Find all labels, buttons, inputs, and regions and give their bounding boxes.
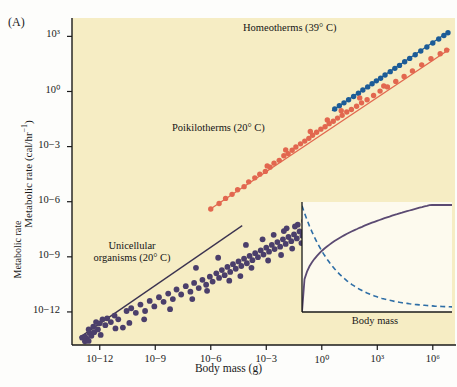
data-point [381,83,386,88]
series-label-unicellular: Unicellularorganisms (20° C) [84,240,180,264]
data-point [419,62,424,67]
data-point [235,187,240,192]
data-point [227,269,233,275]
data-point [277,158,282,163]
data-point [223,196,228,201]
data-point [283,147,288,152]
data-point [241,184,246,189]
x-tick-label: 10⁶ [413,353,453,364]
data-point [126,320,132,326]
data-point [325,117,330,122]
data-point [156,294,162,300]
data-point [133,310,139,316]
data-point [196,285,202,291]
data-point [170,296,176,302]
data-point [128,305,134,311]
data-point [216,201,221,206]
x-tick-label: 10−12 [80,353,120,364]
y-axis-label-close: ) [22,120,34,124]
data-point [378,76,383,81]
data-point [219,267,225,273]
data-point [238,263,244,269]
y-tick-label: 10³ [20,28,60,39]
data-point [410,68,415,73]
x-tick-label: 10−6 [191,353,231,364]
data-point [255,254,261,260]
y-axis-label: Metabolic rate (cal/hr−1) [22,84,34,264]
data-point [349,107,354,112]
data-point [292,224,298,230]
data-point [86,338,92,344]
data-point [102,322,108,328]
data-point [229,192,234,197]
data-point [215,255,221,261]
data-point [193,265,199,271]
data-point [354,103,359,108]
data-point [377,88,382,93]
data-point [237,273,243,279]
data-point [445,30,450,35]
data-point [339,113,344,118]
y-tick-label: 10−6 [20,194,60,205]
data-point [371,93,376,98]
y-tick-label: 10−3 [20,139,60,150]
data-point [272,246,278,252]
data-point [188,289,194,295]
data-point [360,87,365,92]
data-point [167,306,173,312]
x-tick-label: 10⁰ [302,353,342,365]
data-point [174,287,180,293]
data-point [113,326,119,332]
figure-panel-a: (A) Metabolic rate (cal/hr−1) Body mass … [0,0,457,387]
data-point [393,79,398,84]
series-label-poikilotherms: Poikilotherms (20° C) [172,122,265,133]
data-point [191,280,197,286]
data-point [288,238,294,244]
data-point [283,241,289,247]
data-point [430,40,435,45]
data-point [294,236,300,242]
inset-chart [302,202,452,312]
data-point [308,129,313,134]
data-point [278,252,284,258]
data-point [216,275,222,281]
data-point [222,272,228,278]
x-tick-label: 10³ [357,353,397,364]
data-point [337,103,342,108]
data-point [151,304,157,310]
data-point [233,266,239,272]
data-point [413,52,418,57]
data-point [204,288,210,294]
data-point [277,244,283,250]
data-point [249,257,255,263]
data-point [225,264,231,270]
data-point [392,66,397,71]
series-label-unicellular-line1: Unicellular [108,240,155,251]
data-point [428,56,433,61]
data-point [356,91,361,96]
data-point [243,242,249,248]
data-point [382,72,387,77]
y-tick-label: 10−12 [20,304,60,315]
y-tick-label: 10−9 [20,249,60,260]
data-point [293,144,298,149]
data-point [165,291,171,297]
data-point [281,228,287,234]
data-point [257,171,262,176]
data-point [244,260,250,266]
data-point [265,258,271,264]
data-point [226,278,232,284]
data-point [108,319,114,325]
data-point [351,94,356,99]
data-point [436,36,441,41]
data-point [359,100,364,105]
inset-background [302,202,452,312]
data-point [407,56,412,61]
y-tick-label: 10⁰ [20,83,60,95]
data-point [424,44,429,49]
inset-y-axis-label: Metabolic rate [12,202,23,298]
data-point [203,282,209,288]
metabolic-scaling-scatter-plot [0,0,457,387]
data-point [115,316,121,322]
data-point [265,163,270,168]
